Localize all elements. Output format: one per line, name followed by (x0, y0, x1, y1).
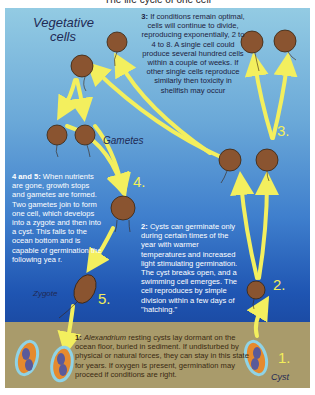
label-vegetative-line2: cells (33, 30, 93, 44)
step-3-description: 3: If conditions remain optimal, cells w… (141, 12, 245, 95)
step-4-number: 4. (133, 173, 146, 190)
step-2-number: 2. (273, 276, 286, 293)
step-1-description: 1: Alexandrium resting cysts lay dormant… (75, 333, 253, 379)
step-4-5-description: 4 and 5: When nutrients are gone, growth… (12, 172, 104, 264)
step-4-5-body: When nutrients are gone, growth stops an… (12, 172, 102, 264)
step-3-heading: 3: (141, 12, 148, 21)
step-1-genus: Alexandrium (84, 333, 126, 342)
life-cycle-diagram: Vegetative cells Gametes Zygote Cyst 3. … (5, 8, 310, 388)
diagram-title: The life cycle of one cell (0, 0, 315, 5)
step-2-heading: 2: (141, 222, 148, 231)
step-2-description: 2: Cysts can germinate only during certa… (141, 222, 241, 314)
step-5-number: 5. (98, 290, 111, 307)
label-gametes: Gametes (103, 135, 144, 146)
step-3-number: 3. (277, 122, 290, 139)
label-cyst: Cyst (271, 372, 289, 382)
step-1-heading: 1: (75, 333, 82, 342)
step-1-number: 1. (278, 349, 291, 366)
label-vegetative-line1: Vegetative (33, 16, 93, 30)
label-vegetative-cells: Vegetative cells (33, 16, 93, 44)
step-4-5-heading: 4 and 5: (12, 172, 41, 181)
step-3-body: If conditions remain optimal, cells will… (142, 12, 245, 95)
label-zygote: Zygote (33, 289, 57, 298)
step-2-body: Cysts can germinate only during certain … (141, 222, 237, 314)
